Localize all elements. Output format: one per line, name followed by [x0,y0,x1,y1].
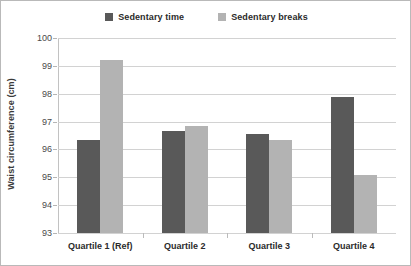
y-axis-tick-label: 97 [26,117,52,127]
x-axis-category-label: Quartile 1 (Ref) [68,241,133,251]
bar [269,140,292,233]
bar-group [58,38,143,233]
x-axis-group-separator [227,233,228,238]
x-axis-group-separator [312,233,313,238]
x-axis-category-labels: Quartile 1 (Ref)Quartile 2Quartile 3Quar… [58,241,396,259]
bar [354,175,377,234]
y-axis-title: Waist circumference (cm) [3,1,19,266]
legend-label-sedentary-breaks: Sedentary breaks [231,12,308,22]
y-axis-title-text: Waist circumference (cm) [6,78,16,190]
y-axis-tick-mark [53,38,57,39]
y-axis-tick-label: 100 [26,33,52,43]
bar [77,140,100,233]
x-axis-category-label: Quartile 3 [248,241,290,251]
x-axis-group-separator [143,233,144,238]
legend-label-sedentary-time: Sedentary time [118,12,184,22]
bar [246,134,269,233]
bar-group [143,38,228,233]
y-axis-tick-mark [53,66,57,67]
y-axis-tick-labels: 93949596979899100 [26,38,52,233]
y-axis-tick-mark [53,205,57,206]
y-axis-tick-mark [53,94,57,95]
y-axis-tick-label: 98 [26,89,52,99]
bar [100,60,123,233]
y-axis-tick-label: 94 [26,200,52,210]
y-axis-tick-mark [53,149,57,150]
y-axis-tick-label: 95 [26,172,52,182]
chart-figure: Sedentary time Sedentary breaks Waist ci… [0,0,411,266]
legend-swatch-sedentary-time [105,13,113,21]
bar [162,131,185,233]
legend-item-sedentary-time: Sedentary time [105,12,184,22]
bar [185,126,208,233]
y-axis-tick-label: 99 [26,61,52,71]
plot-area [58,38,396,233]
y-axis-tick-mark [53,233,57,234]
bar [331,97,354,234]
legend-item-sedentary-breaks: Sedentary breaks [218,12,308,22]
bar-group [227,38,312,233]
x-axis-category-label: Quartile 2 [164,241,206,251]
y-axis-tick-label: 96 [26,144,52,154]
y-axis-tick-mark [53,177,57,178]
y-axis-tick-label: 93 [26,228,52,238]
chart-legend: Sedentary time Sedentary breaks [1,7,411,27]
y-axis-tick-mark [53,122,57,123]
bar-group [312,38,397,233]
x-axis-category-label: Quartile 4 [333,241,375,251]
legend-swatch-sedentary-breaks [218,13,226,21]
